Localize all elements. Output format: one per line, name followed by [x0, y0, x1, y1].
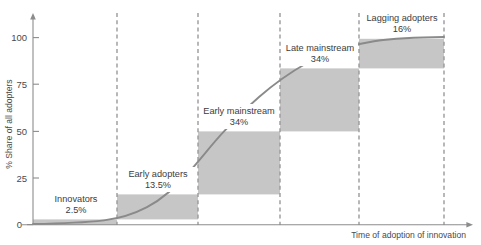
y-axis-title: % Share of all adopters	[4, 79, 14, 168]
segment-label-early-adopters: Early adopters 13.5%	[121, 167, 195, 192]
x-axis-arrow-icon	[466, 222, 473, 228]
segment-name-late-mainstream: Late mainstream	[286, 43, 355, 53]
x-axis: Time of adoption of innovation	[22, 222, 473, 240]
segment-name-early-adopters: Early adopters	[128, 169, 188, 179]
band-early-mainstream	[198, 131, 280, 194]
segment-label-early-mainstream: Early mainstream 34%	[200, 104, 278, 129]
segment-label-lagging-adopters: Lagging adopters 16%	[362, 11, 442, 36]
segment-percent-late-mainstream: 34%	[311, 54, 329, 64]
segment-name-early-mainstream: Early mainstream	[203, 106, 275, 116]
band-late-mainstream	[280, 68, 359, 131]
y-tick-label-25: 25	[16, 173, 27, 184]
segment-label-innovators: Innovators 2.5%	[40, 192, 112, 217]
band-lagging-adopters	[359, 39, 444, 69]
segment-name-innovators: Innovators	[55, 194, 98, 204]
y-tick-label-100: 100	[11, 32, 27, 43]
x-axis-title: Time of adoption of innovation	[351, 230, 466, 240]
chart-canvas: 100 75 50 25 0 % Share of all adopters T…	[0, 0, 481, 245]
segment-name-lagging-adopters: Lagging adopters	[366, 13, 437, 23]
segment-percent-early-adopters: 13.5%	[145, 180, 171, 190]
segment-label-late-mainstream: Late mainstream 34%	[282, 41, 358, 66]
diffusion-of-innovation-chart: 100 75 50 25 0 % Share of all adopters T…	[0, 0, 481, 245]
y-tick-label-50: 50	[16, 126, 27, 137]
y-axis: 100 75 50 25 0 % Share of all adopters	[4, 13, 39, 230]
y-tick-label-0: 0	[17, 219, 22, 230]
y-axis-arrow-icon	[30, 13, 36, 20]
segment-percent-early-mainstream: 34%	[230, 117, 248, 127]
segment-percent-lagging-adopters: 16%	[393, 24, 411, 34]
segment-percent-innovators: 2.5%	[66, 205, 87, 215]
y-tick-label-75: 75	[16, 79, 27, 90]
